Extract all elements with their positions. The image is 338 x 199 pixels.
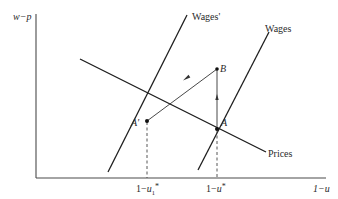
wages-prime-label: Wages'	[192, 11, 220, 22]
point-b-label: B	[220, 63, 226, 74]
point-a-label: A	[220, 117, 228, 128]
wages-label: Wages	[265, 23, 292, 34]
point-a-prime-label: A'	[130, 117, 140, 128]
arrowhead-a-to-b-icon	[215, 94, 218, 100]
point-b	[215, 67, 219, 71]
point-a	[215, 127, 219, 131]
svg-text:1−u*: 1−u*	[206, 182, 226, 194]
x-axis-label: 1−u	[313, 183, 330, 194]
wages-prime-curve	[108, 15, 187, 172]
arrowhead-b-to-a-prime-icon	[183, 75, 190, 81]
arrow-b-to-a-prime	[147, 69, 217, 121]
tick-label-1-u-star: 1−u*	[206, 182, 226, 194]
wage-price-diagram: w−p 1−u Prices Wages' Wages A' A B 1−u1*…	[0, 0, 338, 199]
tick-label-1-u1-star: 1−u1*	[136, 182, 159, 196]
wages-curve	[198, 32, 269, 170]
svg-text:1−u1*: 1−u1*	[136, 182, 159, 196]
y-axis-label: w−p	[13, 11, 31, 22]
prices-label: Prices	[268, 148, 293, 159]
prices-curve	[80, 59, 266, 152]
point-a-prime	[145, 119, 149, 123]
